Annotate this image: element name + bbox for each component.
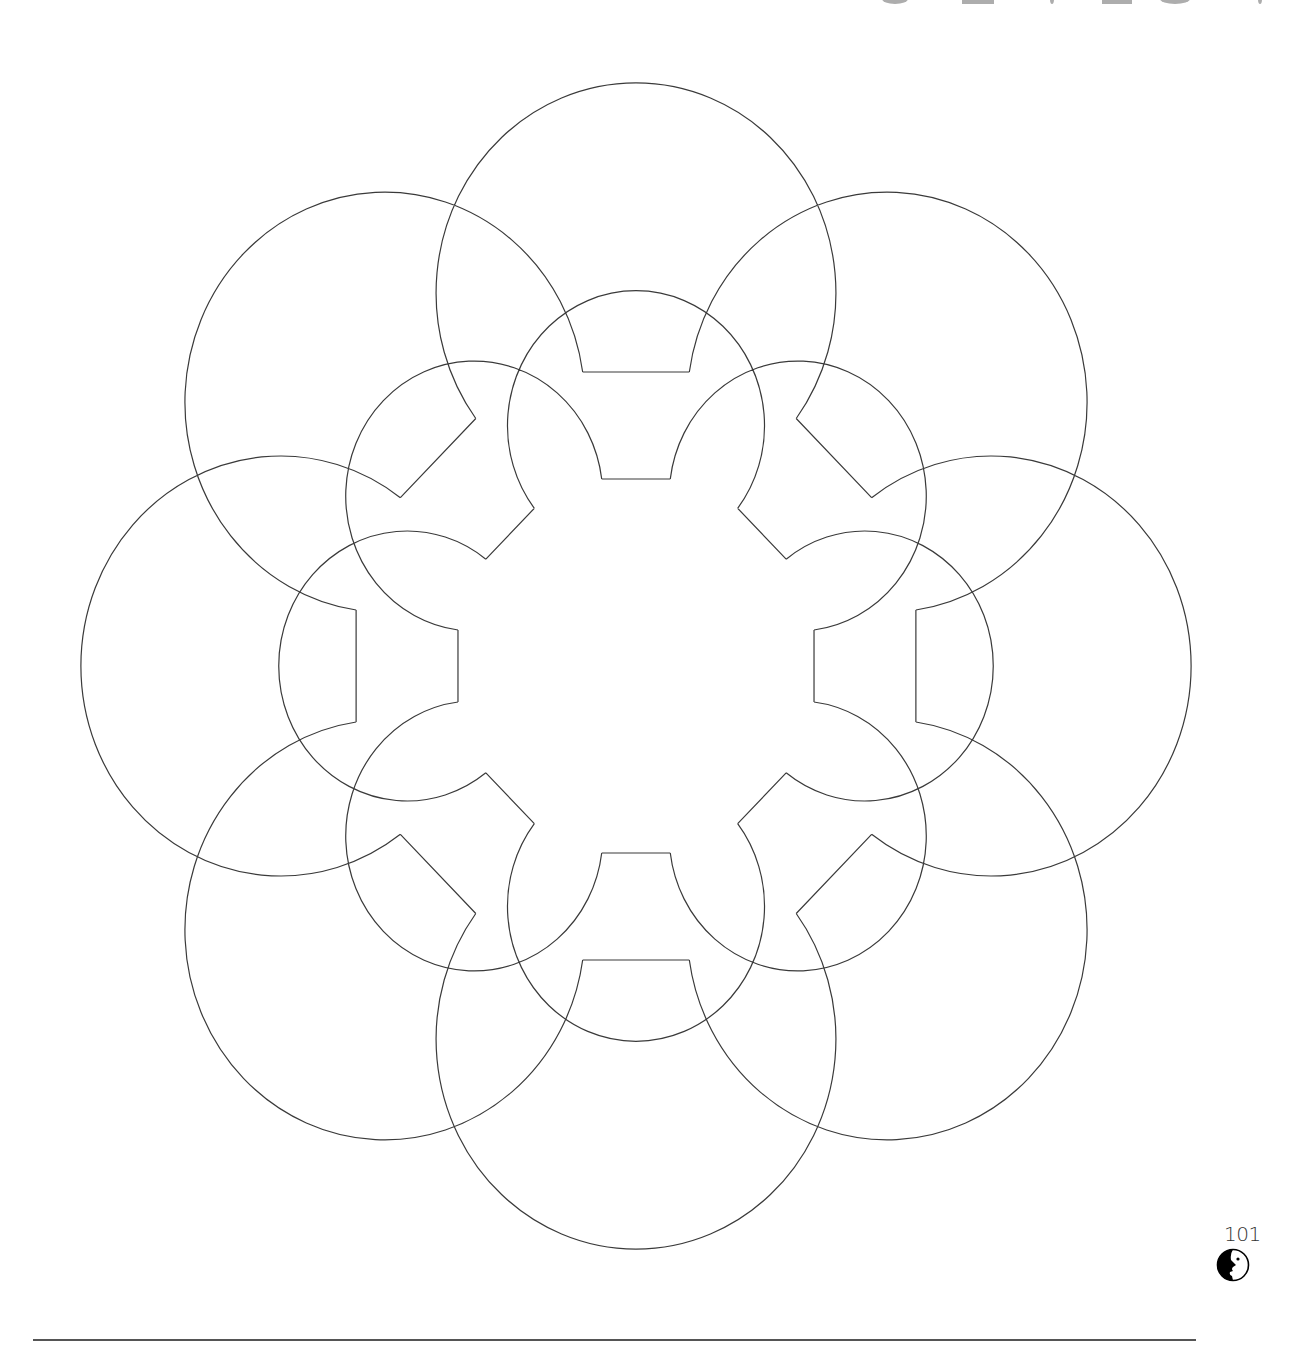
footer-rule — [33, 1339, 1196, 1341]
face-profile-icon — [1216, 1248, 1250, 1282]
circle-rings — [81, 83, 1191, 1249]
outer-ring-outline — [81, 83, 1191, 1249]
page-number: 101 — [1224, 1222, 1261, 1246]
rosette-figure — [0, 0, 1289, 1352]
inner-ring-outline — [279, 291, 994, 1042]
